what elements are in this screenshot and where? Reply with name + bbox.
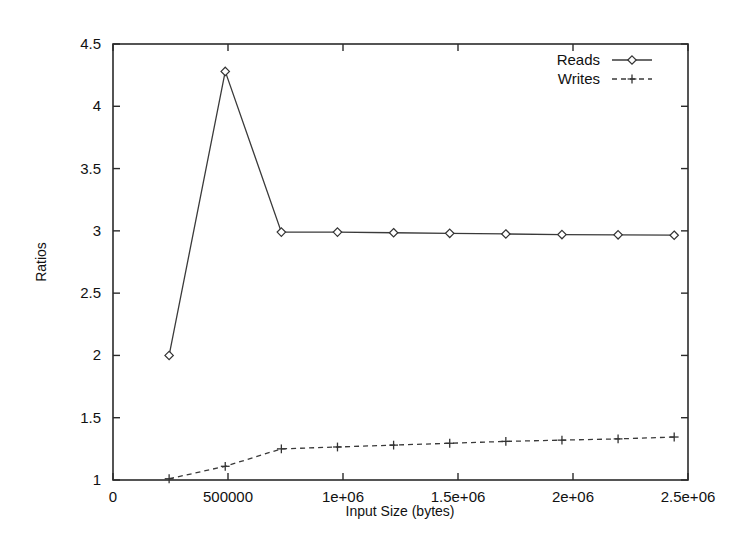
y-tick-label-2: 2 — [93, 346, 101, 363]
chart-container: 05000001e+061.5e+062e+062.5e+06 11.522.5… — [0, 0, 747, 541]
x-tick-label-4: 2e+06 — [552, 488, 594, 505]
x-axis-title: Input Size (bytes) — [346, 503, 455, 519]
legend-label-writes: Writes — [558, 70, 600, 87]
x-tick-label-0: 0 — [109, 488, 117, 505]
y-tick-label-6: 4 — [93, 97, 101, 114]
y-axis-title: Ratios — [33, 242, 49, 282]
chart-background — [0, 0, 747, 541]
line-chart: 05000001e+061.5e+062e+062.5e+06 11.522.5… — [0, 0, 747, 541]
y-tick-label-3: 2.5 — [80, 284, 101, 301]
y-tick-label-7: 4.5 — [80, 35, 101, 52]
x-tick-label-5: 2.5e+06 — [661, 488, 716, 505]
y-tick-label-1: 1.5 — [80, 409, 101, 426]
y-tick-label-4: 3 — [93, 222, 101, 239]
x-tick-label-1: 500000 — [203, 488, 253, 505]
y-tick-label-5: 3.5 — [80, 160, 101, 177]
legend-label-reads: Reads — [557, 51, 600, 68]
y-tick-label-0: 1 — [93, 471, 101, 488]
